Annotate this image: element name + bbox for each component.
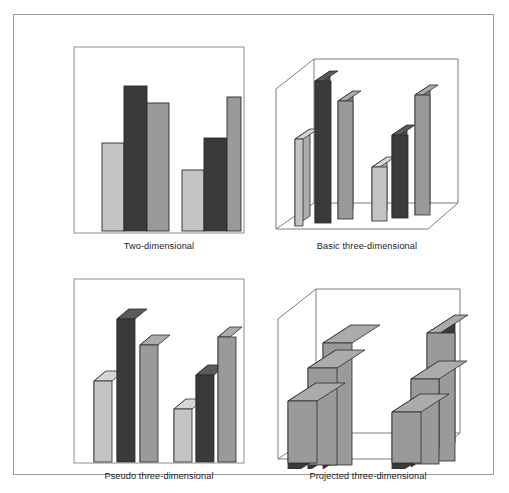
figure-container: Two-dimensional [0,0,509,493]
bar-r2-front-front [392,412,421,463]
bar-group-1 [295,71,361,226]
figure-outer-border: Two-dimensional [13,14,494,475]
bar-g1-s2 [124,86,147,231]
bar-g1-s3 [147,103,169,231]
bar-g2-s2-front [196,375,214,462]
bar-g2-s3-front [218,337,236,462]
bar-g1-s3-front [140,345,158,462]
bar-g2-s3 [227,97,241,231]
panel-projected-three-dimensional [268,273,468,469]
caption-two-dimensional: Two-dimensional [72,241,246,251]
panel-pseudo-three-dimensional [72,277,246,467]
chart-two-dimensional [72,45,246,235]
bar-g2-s1-front [372,167,387,221]
caption-pseudo-three-dimensional: Pseudo three-dimensional [72,471,246,481]
caption-basic-three-dimensional: Basic three-dimensional [268,241,466,251]
chart-pseudo-three-dimensional [72,277,246,467]
bar-g2-s2 [204,138,227,231]
chart-basic-three-dimensional [268,41,466,235]
bar-g1-s3-front [338,101,353,219]
bar-g2-s2-front [392,135,408,218]
bar-r1-front-front [288,401,317,463]
bar-g1-s2-front [315,81,331,223]
bar-g1-s1 [102,143,124,231]
bar-g1-s2-front [117,319,135,462]
bar-g1-s1-front [295,139,303,226]
caption-projected-three-dimensional: Projected three-dimensional [268,471,468,481]
bar-g1-s1-front [94,381,112,462]
bar-g2-s1-front [174,409,192,462]
bar-g2-s1 [182,170,204,231]
bar-g2-s3-front [415,95,430,215]
panel-two-dimensional [72,45,246,235]
panel-basic-three-dimensional [268,41,466,235]
chart-projected-three-dimensional [268,273,468,469]
